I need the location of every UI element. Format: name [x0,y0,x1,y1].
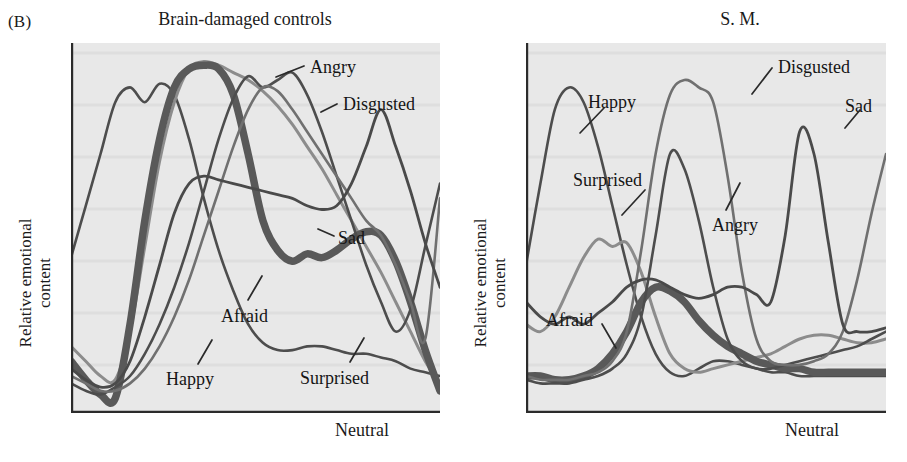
figure-panel-b: (B) Brain-damaged controls Relative emot… [0,0,907,462]
left-label-surprised: Surprised [300,368,369,389]
left-y-axis-label-line2: content [35,168,54,398]
right-label-angry: Angry [712,215,758,236]
left-label-disgusted: Disgusted [343,94,415,115]
right-y-axis-label: Relative emotional content [471,168,509,398]
panel-letter: (B) [8,12,31,32]
right-plot-area [526,43,886,413]
right-label-happy: Happy [588,92,636,113]
left-y-axis-label-line1: Relative emotional [16,168,35,398]
left-panel-title: Brain-damaged controls [105,9,385,30]
left-label-sad: Sad [338,228,365,249]
left-y-axis-label: Relative emotional content [16,168,54,398]
right-x-axis-label: Neutral [785,420,839,441]
left-label-angry: Angry [310,57,356,78]
left-x-axis-label: Neutral [335,420,389,441]
right-y-axis-label-line2: content [490,168,509,398]
left-label-happy: Happy [166,369,214,390]
right-label-surprised: Surprised [573,170,642,191]
right-plot-svg [526,43,886,413]
right-panel-title: S. M. [660,9,820,30]
right-label-sad: Sad [845,96,872,117]
left-label-afraid: Afraid [221,306,268,327]
right-y-axis-label-line1: Relative emotional [471,168,490,398]
right-label-afraid: Afraid [546,310,593,331]
right-label-disgusted: Disgusted [778,57,850,78]
